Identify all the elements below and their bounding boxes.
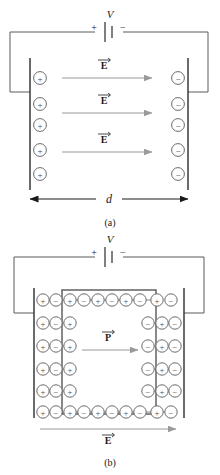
charge-circle: +: [64, 363, 76, 375]
charge-sign: +: [160, 365, 165, 375]
charge-sign: −: [175, 170, 180, 180]
charge-circle: +: [34, 72, 47, 85]
charge-circle: −: [50, 406, 62, 418]
charge-sign: +: [124, 408, 129, 418]
charge-circle: −: [50, 385, 62, 397]
charge-sign: +: [41, 342, 46, 352]
charge-circle: −: [78, 294, 90, 306]
charge-circle: −: [165, 406, 177, 418]
charge-sign: −: [54, 365, 59, 375]
charge-sign: −: [175, 146, 180, 156]
charge-sign: −: [146, 342, 151, 352]
charge-circle: −: [165, 294, 177, 306]
charge-circle: −: [50, 340, 62, 352]
charge-circle: +: [64, 406, 76, 418]
battery-minus-sign: −: [120, 247, 126, 258]
charge-sign: −: [146, 387, 151, 397]
battery-plus-sign: +: [91, 22, 97, 33]
charge-sign: +: [68, 342, 73, 352]
charge-sign: +: [96, 408, 101, 418]
charge-circle: −: [142, 340, 154, 352]
charge-circle: −: [169, 385, 181, 397]
charge-sign: −: [173, 319, 178, 329]
charge-sign: −: [110, 408, 115, 418]
charge-sign: +: [37, 146, 42, 156]
charge-circle: −: [169, 340, 181, 352]
charge-circle: −: [78, 406, 90, 418]
charge-circle: +: [156, 317, 168, 329]
charge-circle: −: [172, 72, 185, 85]
charge-sign: +: [155, 296, 160, 306]
charge-circle: +: [156, 340, 168, 352]
battery-plus-sign: +: [91, 247, 97, 258]
charge-circle: +: [37, 340, 49, 352]
dipole-row: + − + − + − +: [37, 406, 177, 418]
charge-circle: −: [142, 363, 154, 375]
charge-circle: +: [34, 119, 47, 132]
charge-sign: +: [41, 408, 46, 418]
charge-circle: +: [37, 294, 49, 306]
charge-circle: −: [172, 119, 185, 132]
battery-minus-sign: −: [120, 22, 126, 33]
charge-sign: −: [146, 365, 151, 375]
charge-sign: +: [37, 121, 42, 131]
charge-sign: +: [41, 387, 46, 397]
charge-sign: −: [173, 342, 178, 352]
charge-sign: −: [138, 408, 143, 418]
charge-circle: +: [120, 294, 132, 306]
charge-sign: +: [37, 74, 42, 84]
charge-circle: +: [34, 98, 47, 111]
charge-circle: +: [64, 317, 76, 329]
charge-circle: −: [142, 385, 154, 397]
charge-circle: −: [172, 144, 185, 157]
charge-circle: +: [151, 406, 163, 418]
efield-label: E: [101, 95, 108, 106]
charge-circle: −: [50, 317, 62, 329]
charge-sign: −: [82, 296, 87, 306]
charge-circle: −: [106, 294, 118, 306]
charge-sign: +: [160, 342, 165, 352]
charge-sign: −: [54, 387, 59, 397]
charge-sign: −: [169, 296, 174, 306]
charge-circle: +: [120, 406, 132, 418]
charge-circle: +: [37, 385, 49, 397]
charge-sign: −: [175, 121, 180, 131]
charge-circle: −: [106, 406, 118, 418]
charge-sign: +: [160, 387, 165, 397]
charge-circle: −: [134, 406, 146, 418]
charge-sign: −: [175, 100, 180, 110]
charge-sign: +: [68, 296, 73, 306]
charge-circle: +: [156, 385, 168, 397]
charge-circle: −: [134, 294, 146, 306]
panel-a-caption: (a): [104, 217, 115, 229]
charge-circle: +: [151, 294, 163, 306]
charge-sign: −: [146, 319, 151, 329]
charge-sign: +: [155, 408, 160, 418]
charge-sign: +: [41, 319, 46, 329]
charge-sign: −: [175, 74, 180, 84]
charge-circle: +: [64, 294, 76, 306]
charge-sign: +: [41, 296, 46, 306]
separation-label: d: [106, 192, 113, 206]
charge-sign: +: [37, 170, 42, 180]
charge-sign: −: [54, 296, 59, 306]
charge-sign: −: [138, 296, 143, 306]
polarization-label: P: [105, 332, 111, 343]
charge-circle: −: [172, 98, 185, 111]
charge-circle: +: [92, 294, 104, 306]
charge-sign: +: [41, 365, 46, 375]
charge-circle: +: [34, 168, 47, 181]
charge-sign: +: [160, 319, 165, 329]
charge-circle: −: [50, 294, 62, 306]
charge-circle: +: [37, 317, 49, 329]
charge-circle: +: [34, 144, 47, 157]
charge-sign: +: [124, 296, 129, 306]
charge-circle: +: [64, 340, 76, 352]
charge-sign: −: [169, 408, 174, 418]
charge-sign: +: [37, 100, 42, 110]
efield-label: E: [101, 134, 108, 145]
charge-circle: +: [37, 406, 49, 418]
dipole-row: + − + − + − +: [37, 294, 177, 306]
physics-figure-svg: + − V + + + +: [0, 0, 220, 475]
charge-sign: −: [54, 342, 59, 352]
